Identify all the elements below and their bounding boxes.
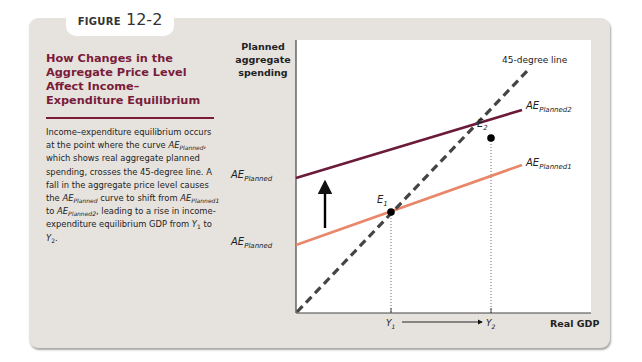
e2-point xyxy=(487,134,495,142)
e1-point xyxy=(387,208,395,216)
e1-label: E1 xyxy=(377,194,388,208)
x-axis-label: Real GDP xyxy=(550,318,599,329)
x-tick-y2: Y2 xyxy=(486,318,495,330)
y-tick-ae-planned-1: AEPlanned xyxy=(231,236,272,250)
y-tick-ae-planned-2: AEPlanned xyxy=(231,169,272,183)
ae-planned-1-label: AEPlanned1 xyxy=(526,157,572,171)
ae-planned-2-line xyxy=(296,110,522,178)
forty-five-degree-label: 45-degree line xyxy=(502,55,567,65)
e2-label: E2 xyxy=(477,118,488,132)
ae-planned-1-line xyxy=(296,165,522,245)
forty-five-degree-line xyxy=(297,68,530,312)
x-tick-y1: Y1 xyxy=(386,318,395,330)
ae-planned-2-label: AEPlanned2 xyxy=(526,100,572,114)
